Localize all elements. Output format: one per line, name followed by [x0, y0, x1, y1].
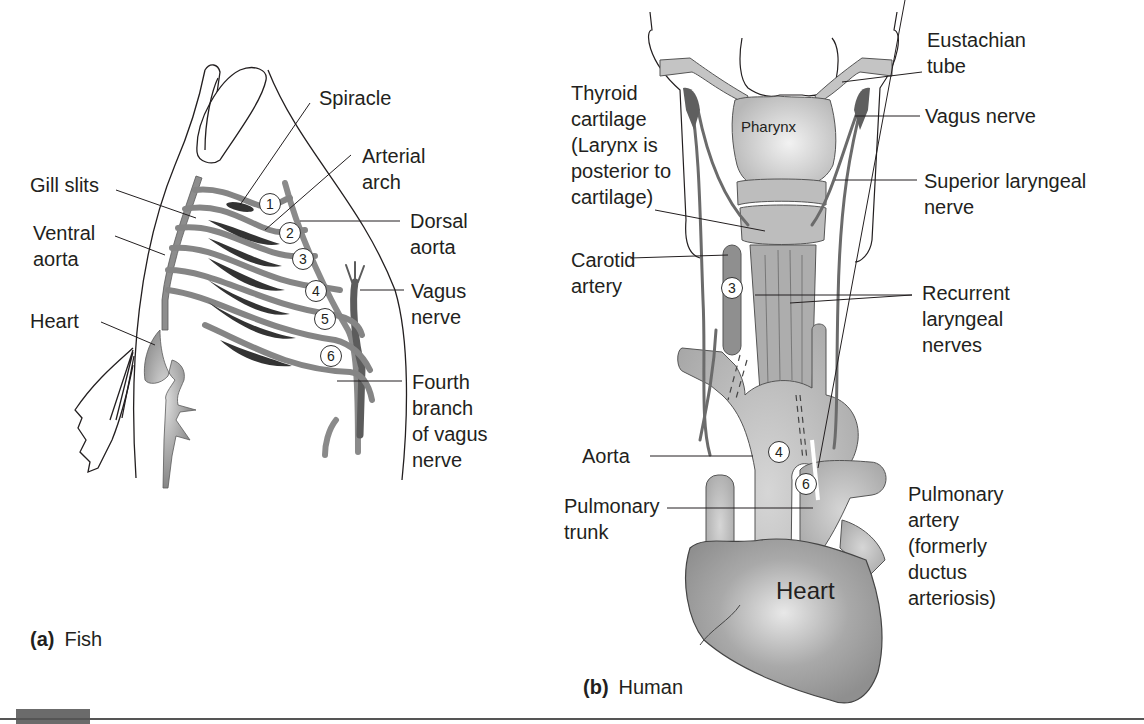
label-arterial-arch: Arterial arch [362, 143, 425, 195]
arch-number-3: 3 [292, 248, 314, 270]
label-aorta: Aorta [582, 443, 630, 469]
arch-number-2: 2 [279, 222, 301, 244]
fish-ventral-aorta [144, 176, 202, 488]
footer-tab-block [16, 709, 90, 724]
label-fourth-branch: Fourth branch of vagus nerve [412, 369, 488, 473]
human-arch-number-3: 3 [721, 277, 743, 299]
caption-title-b: Human [619, 676, 683, 698]
thyroid-cartilage [737, 179, 826, 245]
label-thyroid-cartilage: Thyroid cartilage (Larynx is posterior t… [571, 80, 671, 210]
trachea [750, 245, 816, 392]
label-superior-laryngeal: Superior laryngeal nerve [924, 168, 1086, 220]
label-eustachian-tube: Eustachian tube [927, 27, 1026, 79]
inline-label-pharynx: Pharynx [741, 118, 796, 135]
label-pulmonary-artery: Pulmonary artery (formerly ductus arteri… [908, 481, 1004, 611]
arch-number-4: 4 [305, 280, 327, 302]
caption-letter-b: (b) [583, 676, 609, 698]
label-pulmonary-trunk: Pulmonary trunk [564, 493, 660, 545]
heart-shape [686, 539, 882, 703]
label-vagus-nerve-fish: Vagus nerve [411, 278, 466, 330]
pharynx [732, 96, 836, 190]
label-heart-fish: Heart [30, 308, 79, 334]
label-recurrent-laryngeal: Recurrent laryngeal nerves [922, 280, 1010, 358]
nasal-outline [740, 38, 838, 96]
label-gill-slits: Gill slits [30, 172, 99, 198]
inline-label-heart: Heart [776, 577, 835, 605]
label-ventral-aorta: Ventral aorta [33, 220, 95, 272]
label-carotid-artery: Carotid artery [571, 247, 635, 299]
footer-rule [0, 718, 1144, 720]
carotid-artery-shape [723, 245, 741, 355]
human-arch-number-6: 6 [795, 473, 817, 495]
pectoral-fin [75, 348, 133, 472]
arch-number-1: 1 [259, 193, 281, 215]
human-arch-number-4: 4 [768, 441, 790, 463]
label-spiracle: Spiracle [319, 85, 391, 111]
arch-number-5: 5 [314, 308, 336, 330]
caption-fish: (a)Fish [30, 627, 102, 651]
caption-title-a: Fish [64, 628, 102, 650]
label-vagus-nerve-human: Vagus nerve [925, 103, 1036, 129]
caption-human: (b)Human [583, 675, 683, 699]
arch-number-6: 6 [320, 345, 342, 367]
caption-letter-a: (a) [30, 628, 54, 650]
label-dorsal-aorta: Dorsal aorta [410, 208, 468, 260]
